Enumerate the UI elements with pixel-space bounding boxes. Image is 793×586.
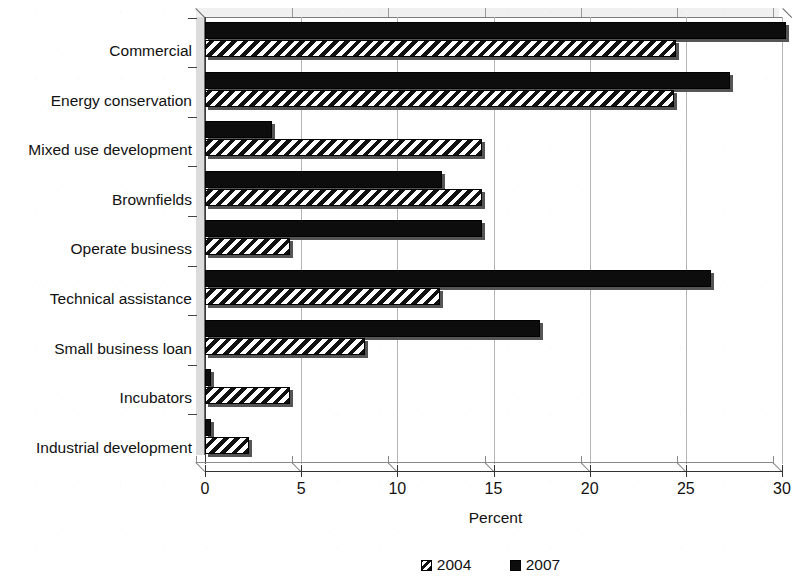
- plot-3d-left-wall: [196, 8, 205, 455]
- bar-2007-mixed-use-development: [205, 121, 272, 138]
- x-axis-line: [205, 471, 783, 472]
- category-label-8: Industrial development: [0, 440, 192, 456]
- bar-2004-operate-business: [205, 238, 290, 255]
- legend-label-2004: 2004: [437, 556, 471, 574]
- legend-item-2007: 2007: [510, 556, 560, 574]
- legend-items: 2004 2007: [404, 556, 577, 574]
- x-axis-tick-label-25: 25: [666, 480, 706, 498]
- y-axis-tick-1: [188, 67, 197, 68]
- x-axis-title: Percent: [0, 509, 793, 527]
- y-axis-tick-5: [188, 266, 197, 267]
- bar-chart: CommercialEnergy conservationMixed use d…: [0, 0, 793, 586]
- category-label-4: Operate business: [0, 241, 192, 257]
- x-axis-title-text: Percent: [469, 509, 522, 526]
- x-axis-back-line: [196, 462, 774, 463]
- gridline-30: [782, 17, 783, 464]
- chart-legend: 2004 2007: [0, 556, 793, 574]
- x-axis-tick-label-0: 0: [185, 480, 225, 498]
- category-label-7: Incubators: [0, 390, 192, 406]
- category-label-6: Small business loan: [0, 341, 192, 357]
- solid-square-icon: [510, 560, 521, 571]
- y-axis-tick-6: [188, 315, 197, 316]
- y-axis-tick-4: [188, 216, 197, 217]
- gridline-top-cap-25: [677, 8, 678, 17]
- y-axis-tick-7: [188, 365, 197, 366]
- bar-2007-industrial-development: [205, 419, 211, 436]
- y-axis-tick-8: [188, 414, 197, 415]
- bar-2004-energy-conservation: [205, 90, 674, 107]
- bar-2004-technical-assistance: [205, 288, 440, 305]
- y-axis-tick-3: [188, 166, 197, 167]
- gridline-top-cap-15: [485, 8, 486, 17]
- gridline-top-cap-5: [292, 8, 293, 17]
- bar-2007-technical-assistance: [205, 270, 711, 287]
- y-axis-tick-0: [188, 18, 197, 19]
- category-label-5: Technical assistance: [0, 291, 192, 307]
- plot-3d-top-wall: [196, 8, 779, 17]
- bar-2004-commercial: [205, 40, 676, 57]
- bar-2007-brownfields: [205, 171, 442, 188]
- gridline-top-cap-10: [388, 8, 389, 17]
- gridline-top-cap-20: [581, 8, 582, 17]
- x-axis-tick-label-30: 30: [762, 480, 793, 498]
- category-label-2: Mixed use development: [0, 142, 192, 158]
- bar-2004-small-business-loan: [205, 338, 365, 355]
- category-label-0: Commercial: [0, 43, 192, 59]
- x-axis-tick-label-10: 10: [377, 480, 417, 498]
- category-label-3: Brownfields: [0, 192, 192, 208]
- bar-2007-energy-conservation: [205, 72, 730, 89]
- category-label-1: Energy conservation: [0, 93, 192, 109]
- bar-2004-industrial-development: [205, 437, 249, 454]
- gridline-top-cap-30: [773, 8, 774, 17]
- legend-label-2007: 2007: [526, 556, 560, 574]
- bar-2004-mixed-use-development: [205, 139, 482, 156]
- legend-item-2004: 2004: [421, 556, 471, 574]
- bar-2004-brownfields: [205, 189, 482, 206]
- bar-2007-operate-business: [205, 220, 482, 237]
- x-axis-tick-label-20: 20: [570, 480, 610, 498]
- category-axis-labels: CommercialEnergy conservationMixed use d…: [0, 12, 196, 462]
- bar-2007-incubators: [205, 369, 211, 386]
- bar-2004-incubators: [205, 387, 290, 404]
- x-axis-tick-label-5: 5: [281, 480, 321, 498]
- hatched-square-icon: [421, 560, 432, 571]
- y-axis-tick-2: [188, 117, 197, 118]
- bar-2007-commercial: [205, 22, 786, 39]
- bar-2007-small-business-loan: [205, 320, 540, 337]
- x-axis-tick-label-15: 15: [474, 480, 514, 498]
